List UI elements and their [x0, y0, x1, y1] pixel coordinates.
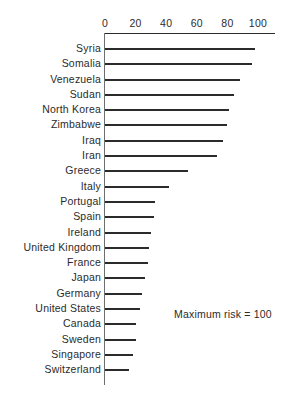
bar-label-sweden: Sweden — [62, 332, 101, 347]
bar-row: Greece — [0, 163, 293, 178]
bar-label-iran: Iran — [82, 148, 101, 163]
bar-label-germany: Germany — [56, 286, 101, 301]
bar-label-france: France — [67, 255, 101, 270]
bar-value-somalia — [105, 63, 252, 65]
bar-value-singapore — [105, 354, 133, 356]
bar-row: United Kingdom — [0, 240, 293, 255]
bar-row: Singapore — [0, 347, 293, 362]
bar-value-portugal — [105, 201, 155, 203]
x-tick-label-0: 0 — [102, 17, 108, 29]
bar-value-north-korea — [105, 109, 229, 111]
x-tick-label-80: 80 — [221, 17, 233, 29]
x-tick-label-40: 40 — [160, 17, 172, 29]
bar-row: Zimbabwe — [0, 117, 293, 132]
bar-row: Iraq — [0, 133, 293, 148]
x-tick-label-100: 100 — [249, 17, 267, 29]
bar-value-germany — [105, 293, 142, 295]
bar-row: France — [0, 255, 293, 270]
bar-value-switzerland — [105, 369, 129, 371]
bar-label-greece: Greece — [65, 163, 101, 178]
bar-row: Spain — [0, 209, 293, 224]
maximum-risk-annotation: Maximum risk = 100 — [174, 308, 272, 320]
x-tick-label-20: 20 — [129, 17, 141, 29]
bar-label-portugal: Portugal — [60, 194, 101, 209]
bar-row: Germany — [0, 286, 293, 301]
bar-rows: SyriaSomaliaVenezuelaSudanNorth KoreaZim… — [0, 41, 293, 378]
bar-row: Venezuela — [0, 72, 293, 87]
bar-row: Iran — [0, 148, 293, 163]
bar-label-italy: Italy — [81, 179, 101, 194]
bar-row: Sudan — [0, 87, 293, 102]
risk-bar-chart: 020406080100 SyriaSomaliaVenezuelaSudanN… — [0, 0, 293, 408]
bar-label-canada: Canada — [63, 316, 101, 331]
bar-row: Syria — [0, 41, 293, 56]
bar-value-iran — [105, 155, 217, 157]
bar-row: Italy — [0, 179, 293, 194]
bar-row: Portugal — [0, 194, 293, 209]
bar-value-syria — [105, 48, 255, 50]
bar-label-zimbabwe: Zimbabwe — [51, 117, 101, 132]
bar-value-iraq — [105, 140, 223, 142]
bar-value-sweden — [105, 339, 136, 341]
x-axis-rule — [104, 33, 275, 34]
bar-row: Sweden — [0, 332, 293, 347]
bar-value-japan — [105, 277, 145, 279]
bar-label-united-states: United States — [35, 301, 101, 316]
bar-value-italy — [105, 186, 169, 188]
bar-value-united-states — [105, 308, 140, 310]
x-tick-label-60: 60 — [191, 17, 203, 29]
bar-label-iraq: Iraq — [82, 133, 101, 148]
bar-label-spain: Spain — [73, 209, 101, 224]
bar-label-north-korea: North Korea — [42, 102, 101, 117]
bar-label-syria: Syria — [76, 41, 101, 56]
bar-value-greece — [105, 170, 188, 172]
bar-value-venezuela — [105, 79, 240, 81]
bar-value-zimbabwe — [105, 124, 227, 126]
bar-label-switzerland: Switzerland — [45, 362, 101, 377]
bar-value-spain — [105, 216, 154, 218]
bar-label-united-kingdom: United Kingdom — [23, 240, 101, 255]
bar-value-canada — [105, 323, 136, 325]
bar-value-ireland — [105, 232, 151, 234]
bar-label-venezuela: Venezuela — [50, 72, 101, 87]
bar-label-sudan: Sudan — [70, 87, 101, 102]
bar-value-united-kingdom — [105, 247, 149, 249]
bar-row: Japan — [0, 270, 293, 285]
bar-value-france — [105, 262, 148, 264]
bar-value-sudan — [105, 94, 234, 96]
bar-row: Switzerland — [0, 362, 293, 377]
bar-label-singapore: Singapore — [51, 347, 101, 362]
bar-label-somalia: Somalia — [62, 56, 101, 71]
bar-label-ireland: Ireland — [67, 225, 101, 240]
bar-row: Ireland — [0, 225, 293, 240]
bar-row: Somalia — [0, 56, 293, 71]
bar-label-japan: Japan — [71, 270, 101, 285]
bar-row: North Korea — [0, 102, 293, 117]
x-axis-tick-labels: 020406080100 — [0, 17, 293, 31]
